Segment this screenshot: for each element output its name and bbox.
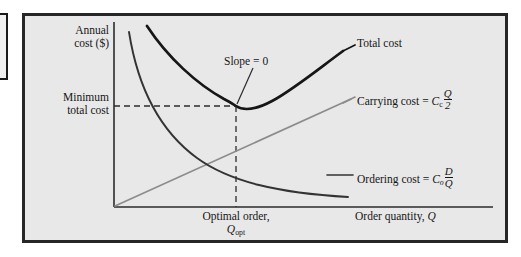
figure-page: Annual cost ($) Minimum total cost Optim… [0, 0, 521, 257]
left-partial-frame [0, 13, 8, 80]
carrying-cost-numerator: Q [444, 88, 452, 99]
optimal-order-line1: Optimal order, [176, 210, 296, 223]
total-cost-leader [343, 45, 355, 51]
x-axis-title: Order quantity, Q [355, 210, 436, 223]
y-axis-title-line2: cost ($) [33, 37, 109, 50]
ordering-cost-numerator: D [445, 166, 453, 177]
ordering-cost-label: Ordering cost = CoDQ [357, 166, 453, 190]
y-axis-title-line1: Annual [33, 24, 109, 37]
carrying-cost-denominator: 2 [444, 99, 452, 111]
optimal-order-subscript: opt [235, 228, 245, 237]
carrying-cost-fraction: Q2 [444, 88, 452, 112]
eoq-figure-frame: Annual cost ($) Minimum total cost Optim… [22, 13, 508, 243]
slope-zero-leader [237, 68, 253, 104]
carrying-cost-label: Carrying cost = CcQ2 [357, 88, 452, 112]
slope-zero-label: Slope = 0 [224, 55, 268, 68]
ordering-cost-fraction: DQ [445, 166, 453, 190]
ordering-cost-symbol: C [432, 173, 440, 185]
minimum-total-cost-line1: Minimum [29, 91, 109, 104]
minimum-total-cost-line2: total cost [29, 104, 109, 117]
optimal-order-q: Q [227, 223, 235, 235]
carrying-cost-text: Carrying cost = [357, 95, 432, 107]
carrying-cost-subscript: c [439, 100, 442, 109]
ordering-cost-text: Ordering cost = [357, 173, 432, 185]
ordering-cost-subscript: o [440, 178, 444, 187]
total-cost-label: Total cost [357, 37, 402, 50]
minimum-total-cost-label: Minimum total cost [29, 91, 109, 117]
y-axis-title: Annual cost ($) [33, 24, 109, 50]
x-axis-title-text: Order quantity, [355, 210, 425, 222]
optimal-order-symbol: Qopt [176, 223, 296, 238]
optimal-order-label: Optimal order, Qopt [176, 210, 296, 238]
carrying-cost-line [115, 99, 351, 206]
carrying-cost-leader [343, 97, 355, 103]
ordering-cost-denominator: Q [445, 177, 453, 189]
x-axis-title-symbol: Q [427, 210, 435, 222]
